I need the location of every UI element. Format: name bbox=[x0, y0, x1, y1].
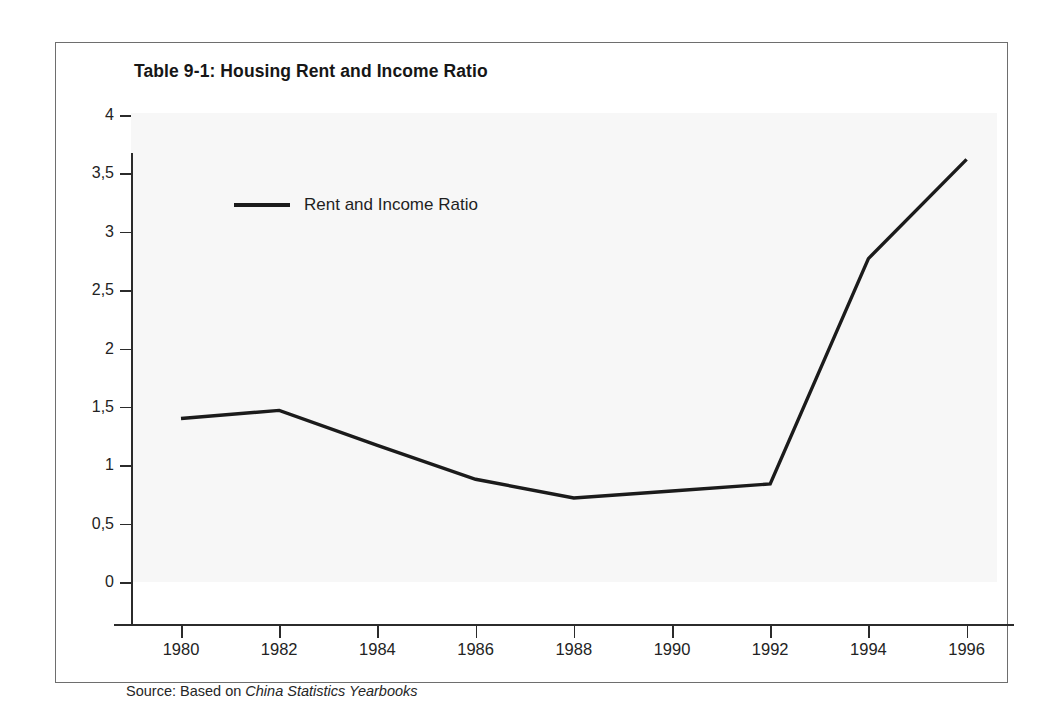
x-axis-line bbox=[114, 624, 1014, 626]
x-axis-tick bbox=[672, 626, 674, 638]
x-axis-tick-label: 1984 bbox=[342, 640, 412, 659]
x-axis-tick bbox=[181, 626, 183, 638]
y-axis-tick-label: 0,5 bbox=[54, 515, 114, 533]
y-axis-tick-label: 2,5 bbox=[54, 281, 114, 299]
x-axis-tick-label: 1988 bbox=[539, 640, 609, 659]
x-axis-tick-label: 1992 bbox=[735, 640, 805, 659]
y-axis-tick bbox=[120, 232, 131, 234]
x-axis-tick bbox=[770, 626, 772, 638]
x-axis-tick bbox=[476, 626, 478, 638]
series-line-rent-and-income-ratio bbox=[131, 113, 1011, 584]
y-axis-tick-label: 1,5 bbox=[54, 398, 114, 416]
x-axis-tick-label: 1980 bbox=[146, 640, 216, 659]
x-axis-tick bbox=[967, 626, 969, 638]
y-axis-tick bbox=[120, 173, 131, 175]
x-axis-tick-label: 1990 bbox=[637, 640, 707, 659]
source-publication: China Statistics Yearbooks bbox=[245, 683, 417, 699]
legend-label-rent-and-income-ratio: Rent and Income Ratio bbox=[304, 195, 478, 215]
x-axis-tick-label: 1994 bbox=[833, 640, 903, 659]
x-axis-tick bbox=[377, 626, 379, 638]
x-axis-tick bbox=[279, 626, 281, 638]
y-axis-tick-label: 4 bbox=[54, 106, 114, 124]
x-axis-tick-label: 1982 bbox=[244, 640, 314, 659]
y-axis-line bbox=[131, 153, 133, 626]
chart-legend: Rent and Income Ratio bbox=[234, 195, 478, 215]
y-axis-tick bbox=[120, 524, 131, 526]
y-axis-tick-label: 0 bbox=[54, 573, 114, 591]
y-axis-tick bbox=[120, 582, 131, 584]
y-axis-tick bbox=[120, 115, 131, 117]
figure-frame: Table 9-1: Housing Rent and Income Ratio… bbox=[55, 42, 1008, 683]
x-axis-tick bbox=[574, 626, 576, 638]
source-prefix: Source: Based on bbox=[126, 683, 245, 699]
y-axis-tick-label: 1 bbox=[54, 456, 114, 474]
x-axis-tick bbox=[868, 626, 870, 638]
y-axis-tick bbox=[120, 465, 131, 467]
y-axis-tick-label: 3,5 bbox=[54, 164, 114, 182]
y-axis-tick bbox=[120, 349, 131, 351]
y-axis-tick-label: 2 bbox=[54, 340, 114, 358]
page-title: Table 9-1: Housing Rent and Income Ratio bbox=[134, 61, 488, 82]
legend-line-swatch bbox=[234, 203, 290, 206]
source-note: Source: Based on China Statistics Yearbo… bbox=[126, 683, 418, 699]
y-axis-tick bbox=[120, 407, 131, 409]
y-axis-tick-label: 3 bbox=[54, 223, 114, 241]
y-axis-tick bbox=[120, 290, 131, 292]
plot-area bbox=[131, 113, 1011, 584]
x-axis-tick-label: 1986 bbox=[441, 640, 511, 659]
x-axis-tick-label: 1996 bbox=[932, 640, 1002, 659]
